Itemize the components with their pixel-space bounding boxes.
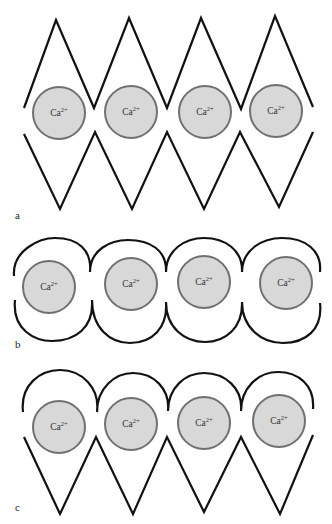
panel-label-a: a [15, 209, 20, 221]
calcium-ion: Ca2+ [260, 257, 312, 309]
panel-c: Ca2+ Ca2+ Ca2+ Ca2+ c [15, 370, 313, 514]
calcium-ion: Ca2+ [23, 261, 75, 313]
calcium-ion: Ca2+ [253, 395, 305, 447]
lower-zigzag-chain [24, 132, 313, 209]
calcium-ion: Ca2+ [33, 87, 85, 139]
calcium-ion: Ca2+ [178, 256, 230, 308]
calcium-ion: Ca2+ [105, 398, 157, 450]
calcium-ion: Ca2+ [178, 397, 230, 449]
calcium-ion: Ca2+ [179, 86, 231, 138]
calcium-ion: Ca2+ [105, 86, 157, 138]
panel-label-c: c [15, 501, 20, 513]
calcium-ion: Ca2+ [105, 258, 157, 310]
calcium-binding-diagram: Ca2+ Ca2+ Ca2+ Ca2+ a Ca2+ Ca2+ Ca2+ [0, 0, 332, 524]
calcium-ion: Ca2+ [33, 401, 85, 453]
panel-label-b: b [15, 338, 21, 350]
panel-b: Ca2+ Ca2+ Ca2+ Ca2+ b [14, 238, 320, 350]
calcium-ion: Ca2+ [250, 85, 302, 137]
panel-a: Ca2+ Ca2+ Ca2+ Ca2+ a [15, 16, 313, 221]
